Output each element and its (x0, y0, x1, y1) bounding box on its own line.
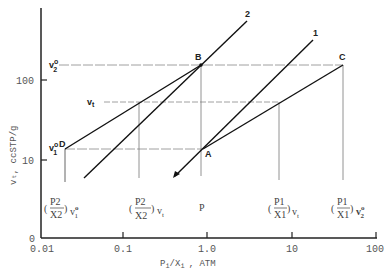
y-tick-label: 10 (22, 156, 34, 167)
v1-level-label: vo1 (49, 141, 58, 156)
svg-text:vo1: vo1 (70, 204, 79, 220)
svg-text:P1: P1 (274, 196, 285, 207)
x-tick-label: 0.1 (114, 244, 132, 255)
svg-text:vt: vt (157, 205, 164, 219)
y-axis-title: vₜ, ccSTP/g (9, 126, 19, 185)
annotation-p2x2-v1: ( P2 X2 ) vo1 (44, 196, 79, 220)
svg-text:): ) (64, 203, 67, 215)
svg-text:P2: P2 (135, 196, 146, 207)
annotation-p1x1-v2: ( P1 X1 ) vo2 (331, 196, 365, 220)
diagram-canvas: 0.01 0.1 1.0 10 100 0 10 100 Pi/Xi, ATM … (0, 0, 390, 276)
svg-text:): ) (350, 203, 353, 215)
line-2 (84, 21, 247, 178)
x-axis-title: Pi/Xi, ATM (160, 259, 216, 270)
line-D-B (65, 65, 201, 149)
svg-text:X1: X1 (337, 209, 349, 220)
line-A-C (203, 65, 343, 149)
y-tick-label: 100 (16, 76, 34, 87)
point-B-marker (199, 63, 203, 67)
svg-text:vo2: vo2 (356, 204, 365, 220)
point-B-label: B (195, 52, 202, 62)
y-tick-label: 0 (29, 234, 35, 245)
svg-text:X2: X2 (135, 210, 147, 221)
x-tick-label: 0.01 (30, 244, 54, 255)
x-tick-label: 10 (286, 244, 298, 255)
vt-level-label: vt (87, 97, 95, 108)
svg-text:): ) (151, 203, 154, 215)
svg-text:vt: vt (292, 206, 299, 220)
svg-text:(: ( (268, 203, 272, 215)
svg-text:X1: X1 (274, 209, 286, 220)
annotation-p: P (199, 202, 205, 213)
annotation-p2x2-vt: ( P2 X2 ) vt (129, 196, 164, 221)
point-A-label: A (205, 149, 212, 159)
svg-text:X2: X2 (50, 209, 62, 220)
x-tick-label: 100 (366, 244, 384, 255)
x-tick-label: 1.0 (198, 244, 216, 255)
point-C-label: C (339, 52, 346, 62)
line-1-label: 1 (313, 28, 318, 38)
svg-text:P1: P1 (337, 196, 348, 207)
point-D-label: D (59, 139, 66, 149)
svg-text:(: ( (331, 203, 335, 215)
svg-text:(: ( (44, 203, 48, 215)
svg-text:(: ( (129, 203, 133, 215)
v2-level-label: vo2 (49, 58, 58, 73)
line-2-label: 2 (245, 9, 250, 19)
svg-text:): ) (287, 203, 290, 215)
svg-text:P2: P2 (50, 196, 61, 207)
annotation-p1x1-vt: ( P1 X1 ) vt (268, 196, 299, 220)
